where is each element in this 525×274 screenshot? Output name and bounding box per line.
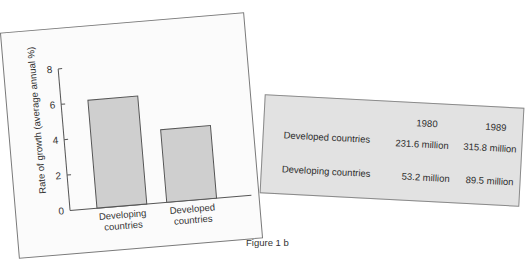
cell-developing-1989: 89.5 million: [465, 174, 514, 188]
cell-developed-1980: 231.6 million: [395, 137, 449, 151]
bar-developed: [161, 126, 217, 203]
y-tick-label: 6: [49, 99, 56, 110]
cell-developed-1989: 315.8 million: [463, 141, 517, 155]
y-tick-label: 2: [55, 170, 62, 181]
y-tick-label: 4: [52, 135, 59, 146]
column-header-1989: 1989: [485, 121, 507, 133]
cell-developing-1980: 53.2 million: [401, 171, 450, 185]
y-tick-label: 0: [58, 205, 65, 216]
figure-1b-caption: Figure 1 b: [246, 237, 289, 248]
column-header-1980: 1980: [416, 117, 438, 129]
figure-1b-panel: 02468DevelopingcountriesDevelopedcountri…: [0, 12, 263, 259]
x-tick-label: countries: [104, 218, 144, 232]
x-tick-label: countries: [174, 213, 214, 227]
figure-1a-table: 1980 1989 Developed countries 231.6 mill…: [260, 94, 525, 206]
row-label-developed: Developed countries: [283, 129, 370, 145]
y-tick-label: 8: [46, 64, 53, 75]
bar-developing: [88, 96, 147, 208]
row-label-developing: Developing countries: [282, 163, 371, 179]
